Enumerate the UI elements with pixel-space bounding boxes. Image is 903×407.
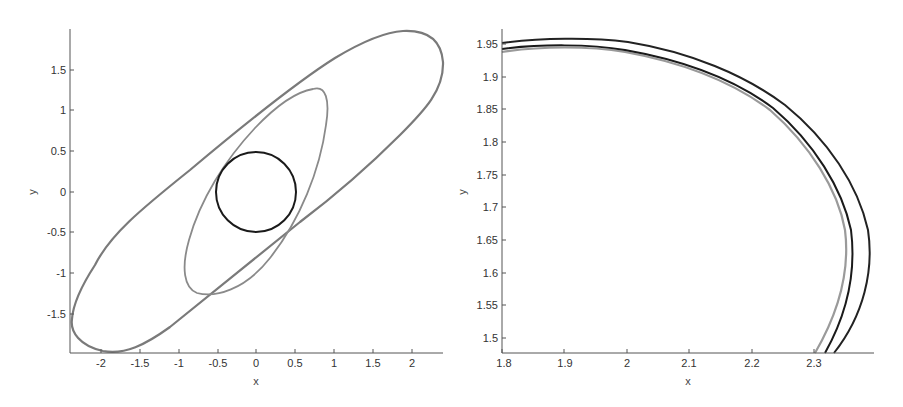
left-plot: -2 -1.5 -1 -0.5 0 0.5 1 1.5 2 x 1.5 1 0.… <box>26 29 443 387</box>
svg-text:0: 0 <box>60 186 66 198</box>
inner-ellipse-curve <box>185 88 328 294</box>
svg-text:1.5: 1.5 <box>483 332 498 344</box>
svg-text:1.95: 1.95 <box>477 38 498 50</box>
svg-text:-2: -2 <box>96 357 106 369</box>
left-x-ticks <box>101 349 412 353</box>
svg-text:-0.5: -0.5 <box>209 357 228 369</box>
svg-text:2.2: 2.2 <box>744 357 759 369</box>
left-y-axis-label: y <box>26 189 38 195</box>
svg-text:0: 0 <box>253 357 259 369</box>
svg-text:1.7: 1.7 <box>483 201 498 213</box>
svg-text:1.65: 1.65 <box>477 234 498 246</box>
outer-loop-curve <box>72 31 443 352</box>
svg-text:1.8: 1.8 <box>496 357 511 369</box>
svg-text:1.8: 1.8 <box>483 136 498 148</box>
svg-text:-1: -1 <box>174 357 184 369</box>
right-x-ticks <box>502 349 814 353</box>
right-y-ticks <box>502 44 506 338</box>
left-x-tick-labels: -2 -1.5 -1 -0.5 0 0.5 1 1.5 2 <box>96 357 415 369</box>
left-plot-curves <box>72 31 443 352</box>
svg-text:-1: -1 <box>56 267 66 279</box>
figure: -2 -1.5 -1 -0.5 0 0.5 1 1.5 2 x 1.5 1 0.… <box>0 0 903 407</box>
left-y-ticks <box>70 70 74 314</box>
right-y-axis-label: y <box>456 189 468 195</box>
svg-text:1.5: 1.5 <box>365 357 380 369</box>
right-y-tick-labels: 1.95 1.9 1.85 1.8 1.75 1.7 1.65 1.6 1.55… <box>477 38 498 344</box>
svg-text:1.75: 1.75 <box>477 169 498 181</box>
svg-text:2.1: 2.1 <box>681 357 696 369</box>
svg-text:2: 2 <box>409 357 415 369</box>
right-plot: 1.8 1.9 2 2.1 2.2 2.3 x 1.95 1.9 1.85 1.… <box>456 29 874 387</box>
svg-text:-1.5: -1.5 <box>131 357 150 369</box>
outer-black-curve <box>502 39 870 353</box>
left-y-tick-labels: 1.5 1 0.5 0 -0.5 -1 -1.5 <box>47 64 66 320</box>
right-x-axis-label: x <box>685 375 691 387</box>
circle-curve <box>216 152 296 232</box>
svg-text:1.9: 1.9 <box>483 71 498 83</box>
inner-gray-curve <box>502 48 846 354</box>
svg-text:1.85: 1.85 <box>477 103 498 115</box>
svg-text:-1.5: -1.5 <box>47 308 66 320</box>
svg-text:2.3: 2.3 <box>806 357 821 369</box>
svg-text:1: 1 <box>331 357 337 369</box>
svg-text:-0.5: -0.5 <box>47 226 66 238</box>
middle-black-curve <box>502 45 852 353</box>
right-plot-curves <box>502 39 870 353</box>
right-x-tick-labels: 1.8 1.9 2 2.1 2.2 2.3 <box>496 357 821 369</box>
svg-text:0.5: 0.5 <box>51 145 66 157</box>
svg-text:0.5: 0.5 <box>287 357 302 369</box>
svg-text:1.5: 1.5 <box>51 64 66 76</box>
svg-text:1.6: 1.6 <box>483 267 498 279</box>
svg-text:1: 1 <box>60 104 66 116</box>
left-x-axis-label: x <box>253 375 259 387</box>
svg-text:1.9: 1.9 <box>557 357 572 369</box>
svg-text:2: 2 <box>624 357 630 369</box>
svg-text:1.55: 1.55 <box>477 299 498 311</box>
